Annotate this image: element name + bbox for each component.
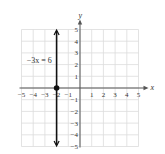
y-tick-label: −1 [71, 96, 79, 104]
annotations: −3x = 6 [27, 56, 52, 65]
x-tick-label: 2 [102, 91, 106, 99]
y-tick-label: 2 [75, 61, 79, 69]
x-tick-label: −4 [29, 91, 37, 99]
y-axis-label: y [78, 11, 83, 20]
x-tick-label: 1 [90, 91, 94, 99]
y-tick-label: −4 [71, 131, 79, 139]
x-tick-label: −3 [41, 91, 49, 99]
x-axis-label: x [150, 83, 155, 92]
x-axis-arrow-icon [144, 86, 149, 90]
y-tick-label: −2 [71, 108, 79, 116]
x-tick-label: 4 [125, 91, 129, 99]
x-tick-label: 3 [113, 91, 117, 99]
y-tick-label: −5 [71, 143, 79, 151]
y-tick-label: −3 [71, 120, 79, 128]
axes: xy [20, 11, 155, 148]
y-axis-arrow-icon [78, 20, 82, 25]
x-tick-label: −5 [18, 91, 26, 99]
y-tick-label: 1 [75, 73, 79, 81]
y-tick-label: 4 [75, 38, 79, 46]
graph-vertical-line: xy −5−4−3−2−11234554321−1−2−3−4−5 −3x = … [0, 0, 165, 154]
point-marker [54, 85, 60, 91]
y-tick-label: 5 [75, 26, 79, 34]
series [54, 30, 60, 146]
x-tick-label: 5 [137, 91, 141, 99]
y-tick-label: 3 [75, 49, 79, 57]
equation-label: −3x = 6 [27, 56, 52, 65]
